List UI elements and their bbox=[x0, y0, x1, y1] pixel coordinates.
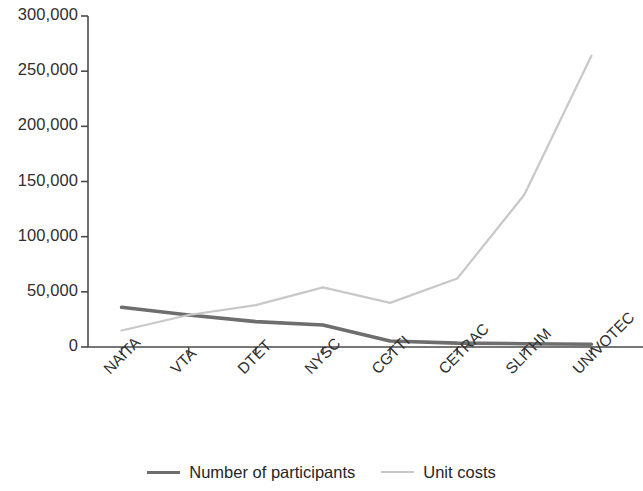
legend-line-swatch-icon bbox=[381, 471, 414, 473]
x-axis-tick-label-vta: VTA bbox=[167, 344, 200, 377]
x-axis-tick-label-cetrac: CETRAC bbox=[435, 320, 493, 378]
legend-entry-1[interactable]: Unit costs bbox=[381, 463, 495, 482]
legend-line-swatch-icon bbox=[147, 471, 180, 474]
chart-legend: Number of participantsUnit costs bbox=[0, 456, 643, 488]
x-axis-tick-label-slithm: SLITHM bbox=[502, 325, 555, 378]
x-axis-tick-label-dtet: DTET bbox=[234, 336, 275, 377]
legend-label: Unit costs bbox=[423, 463, 495, 482]
legend-entry-0[interactable]: Number of participants bbox=[147, 463, 355, 482]
line-chart: 050,000100,000150,000200,000250,000300,0… bbox=[0, 0, 643, 491]
legend-label: Number of participants bbox=[189, 463, 355, 482]
x-axis-tick-label-univotec: UNIVOTEC bbox=[569, 308, 638, 377]
x-axis-tick-label-nysc: NYSC bbox=[301, 335, 344, 378]
x-axis-tick-label-naita: NAITA bbox=[100, 334, 144, 378]
x-axis-tick-label-cgtti: CGTTI bbox=[368, 332, 414, 378]
x-axis-tick-labels: NAITAVTADTETNYSCCGTTICETRACSLITHMUNIVOTE… bbox=[0, 0, 643, 491]
